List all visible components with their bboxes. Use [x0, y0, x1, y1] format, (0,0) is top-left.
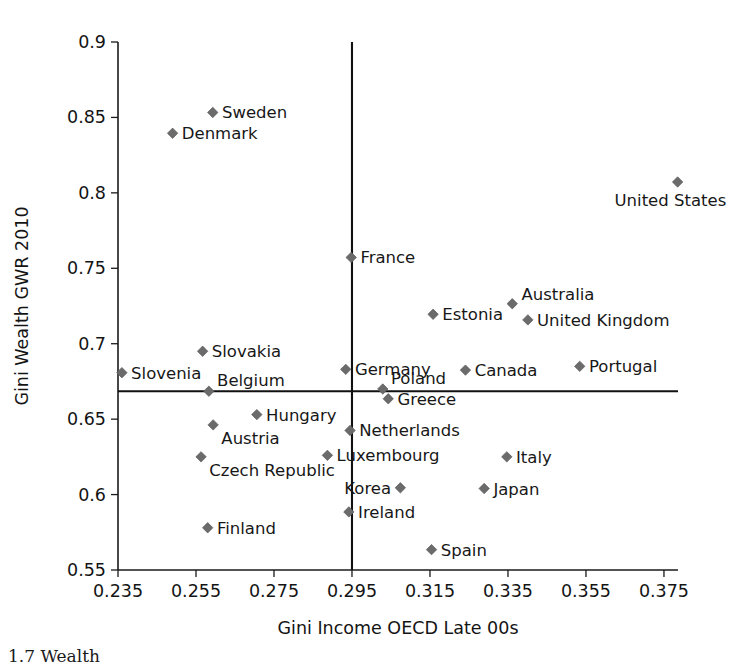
data-point-label: Ireland	[358, 503, 415, 522]
data-point-label: Italy	[516, 448, 552, 467]
x-tick-label: 0.375	[639, 581, 689, 601]
data-point: Estonia	[428, 305, 503, 324]
x-tick-label: 0.255	[171, 581, 221, 601]
y-tick-label: 0.8	[78, 183, 106, 203]
data-point: Spain	[426, 541, 487, 560]
data-point-label: United Kingdom	[537, 311, 669, 330]
diamond-marker	[428, 309, 438, 319]
data-point: Italy	[502, 448, 552, 467]
x-tick-label: 0.275	[249, 581, 299, 601]
x-tick-labels-group: 0.2350.2550.2750.2950.3150.3350.3550.375	[93, 581, 689, 601]
diamond-marker	[672, 177, 682, 187]
diamond-marker	[383, 394, 393, 404]
x-tick-label: 0.295	[327, 581, 377, 601]
diamond-marker	[575, 361, 585, 371]
data-point-label: Slovakia	[212, 342, 281, 361]
data-point: Korea	[344, 479, 405, 498]
diamond-marker	[204, 386, 214, 396]
data-point: Slovenia	[117, 364, 202, 383]
data-point-label: Korea	[344, 479, 391, 498]
data-point: Ireland	[344, 503, 415, 522]
diamond-marker	[395, 483, 405, 493]
scatter-plot-svg: 0.550.60.650.70.750.80.850.9 0.2350.2550…	[0, 0, 741, 668]
diamond-marker	[523, 315, 533, 325]
diamond-marker	[167, 128, 177, 138]
data-point-label: Poland	[391, 369, 446, 388]
data-point: Japan	[479, 480, 539, 499]
y-tick-label: 0.6	[78, 485, 106, 505]
diamond-marker	[507, 299, 517, 309]
data-point-label: Portugal	[589, 357, 657, 376]
data-point: Czech Republic	[196, 452, 335, 480]
diamond-marker	[346, 252, 356, 262]
data-point: Belgium	[204, 371, 285, 396]
scatter-chart-figure: 0.550.60.650.70.750.80.850.9 0.2350.2550…	[0, 0, 741, 668]
diamond-marker	[197, 346, 207, 356]
data-point-label: Slovenia	[131, 364, 201, 383]
data-point: Netherlands	[345, 421, 460, 440]
diamond-marker	[345, 425, 355, 435]
x-tick-label: 0.355	[561, 581, 611, 601]
data-point-label: Sweden	[222, 103, 287, 122]
data-point-label: United States	[615, 191, 727, 210]
data-point: France	[346, 248, 415, 267]
x-tick-label: 0.335	[483, 581, 533, 601]
data-point-label: Netherlands	[359, 421, 460, 440]
data-point-label: Finland	[217, 519, 276, 538]
caption-fragment: 1.7 Wealth	[8, 646, 100, 666]
data-point: Canada	[460, 361, 537, 380]
x-axis-title: Gini Income OECD Late 00s	[277, 618, 518, 638]
y-tick-labels-group: 0.550.60.650.70.750.80.850.9	[67, 32, 106, 580]
x-tick-label: 0.315	[405, 581, 455, 601]
data-point: Slovakia	[197, 342, 281, 361]
data-point: Hungary	[252, 406, 337, 425]
data-point-label: Belgium	[217, 371, 285, 390]
diamond-marker	[502, 452, 512, 462]
data-point: Sweden	[208, 103, 288, 122]
y-tick-label: 0.75	[67, 258, 106, 278]
diamond-marker	[208, 107, 218, 117]
diamond-marker	[202, 523, 212, 533]
data-point-label: Czech Republic	[209, 461, 335, 480]
data-point-label: Japan	[492, 480, 539, 499]
data-point: United Kingdom	[523, 311, 670, 330]
data-point-label: Estonia	[442, 305, 503, 324]
data-point: Finland	[202, 519, 275, 538]
data-point-label: Australia	[521, 285, 594, 304]
y-axis-title: Gini Wealth GWR 2010	[12, 206, 32, 405]
diamond-marker	[479, 483, 489, 493]
x-tick-label: 0.235	[93, 581, 143, 601]
diamond-marker	[196, 452, 206, 462]
data-point-label: Denmark	[182, 124, 258, 143]
data-point: Luxembourg	[322, 446, 439, 465]
data-point-label: France	[360, 248, 415, 267]
data-point-label: Luxembourg	[337, 446, 440, 465]
data-point-label: Greece	[397, 390, 456, 409]
data-point: Portugal	[575, 357, 658, 376]
data-point: United States	[615, 177, 727, 210]
y-tick-label: 0.9	[78, 32, 106, 52]
y-tick-label: 0.55	[67, 560, 106, 580]
data-points-group: SwedenDenmarkUnited StatesFranceAustrali…	[117, 103, 727, 559]
y-tick-label: 0.65	[67, 409, 106, 429]
data-point: Greece	[383, 390, 456, 409]
data-point-label: Hungary	[266, 406, 337, 425]
data-point-label: Canada	[475, 361, 538, 380]
data-point: Australia	[507, 285, 594, 309]
y-tick-label: 0.7	[78, 334, 106, 354]
data-point-label: Austria	[221, 429, 279, 448]
diamond-marker	[426, 544, 436, 554]
diamond-marker	[322, 450, 332, 460]
diamond-marker	[252, 409, 262, 419]
y-tick-label: 0.85	[67, 107, 106, 127]
data-point: Denmark	[167, 124, 258, 143]
diamond-marker	[208, 420, 218, 430]
data-point-label: Spain	[441, 541, 487, 560]
diamond-marker	[341, 364, 351, 374]
diamond-marker	[460, 365, 470, 375]
diamond-marker	[378, 384, 388, 394]
